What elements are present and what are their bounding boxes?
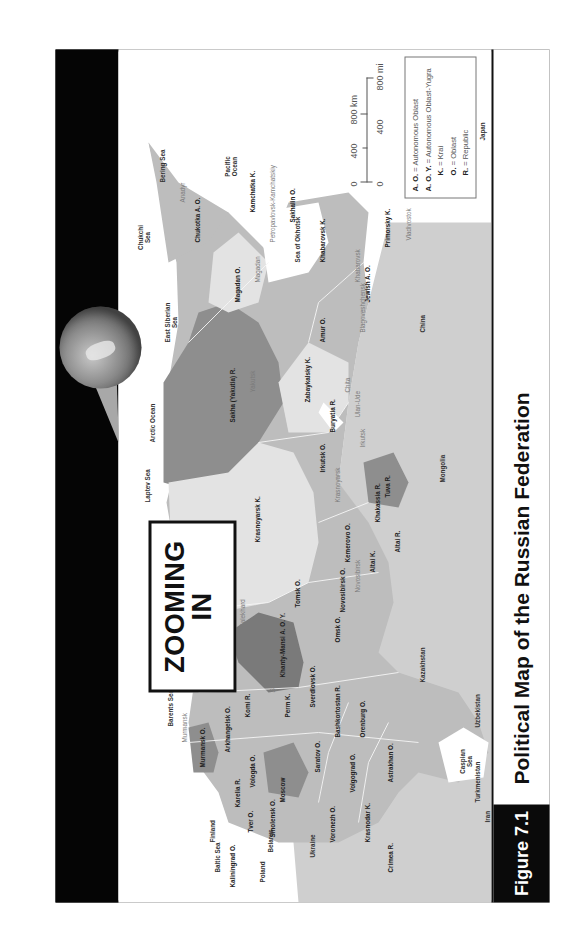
city-chita: Chita <box>343 377 350 392</box>
zooming-in-line2: IN <box>188 523 215 689</box>
label-caspian-sea: Caspian Sea <box>458 745 472 777</box>
label-tver: Tver O. <box>246 810 253 832</box>
city-anadyr: Anadyr <box>178 182 185 202</box>
label-pacific-ocean: Pacific Ocean <box>223 150 237 182</box>
label-buryatia: Buryatia R. <box>328 399 335 432</box>
label-altai-krai: Altai K. <box>368 550 375 572</box>
label-magadan: Magadan O. <box>233 266 240 302</box>
figure-title: Political Map of the Russian Federation <box>493 392 549 784</box>
label-perm: Perm K. <box>283 693 290 717</box>
scale-mi-400: 400 <box>374 119 384 134</box>
label-saratov: Saratov O. <box>313 741 320 773</box>
figure-panel: Arctic Ocean Barents Sea Kara Sea Laptev… <box>55 49 549 902</box>
map-legend: A. O. = Autonomous Oblast A. O. Y. = Aut… <box>404 56 476 198</box>
label-kemerovo: Kemerovo O. <box>343 523 350 562</box>
legend-item: K. = Krai <box>434 63 447 191</box>
label-amur: Amur O. <box>318 317 325 342</box>
zoom-beam <box>55 49 175 902</box>
label-voronezh: Voronezh O. <box>328 805 335 842</box>
city-blagoveshchensk: Blagoveshchensk <box>358 283 365 332</box>
label-bashkortostan: Bashkortostan R. <box>333 685 340 737</box>
label-komi: Komi R. <box>243 693 250 717</box>
label-kaliningrad: Kaliningrad O. <box>228 844 235 887</box>
legend-item: O. = Oblast <box>447 63 460 191</box>
label-ukraine: Ukraine <box>308 834 315 857</box>
figure-label: Figure 7.1 <box>493 804 549 902</box>
label-vologda: Vologda O. <box>248 754 255 787</box>
label-sverdlovsk: Sverdlovsk O. <box>308 665 315 707</box>
label-murmansk: Murmansk O. <box>198 727 205 767</box>
city-murmansk: Murmansk <box>180 713 187 742</box>
label-khanty-mansi: Khanty-Mansi A. O. Y. <box>278 613 285 677</box>
label-zabaykalsky: Zabaykalsky K. <box>303 356 310 402</box>
label-japan: Japan <box>478 122 485 140</box>
label-sea-of-okhotsk: Sea of Okhotsk <box>293 216 300 262</box>
label-khabarovsk: Khabarovsk K. <box>318 218 325 262</box>
label-smolensk: Smolensk O. <box>268 799 275 837</box>
label-mongolia: Mongolia <box>438 454 445 482</box>
label-khakassia: Khakassia R. <box>373 483 380 522</box>
label-baltic-sea: Baltic Sea <box>213 842 220 872</box>
scale-km-400: 400 <box>348 143 358 158</box>
legend-item: A. O. = Autonomous Oblast <box>409 63 422 191</box>
label-kamchatka: Kamchatka K. <box>248 170 255 212</box>
label-astrakhan: Astrakhan O. <box>386 743 393 782</box>
city-magadan: Magadan <box>253 256 260 282</box>
scale-km-0: 0 <box>348 181 358 186</box>
scale-mi-800: 800 mi <box>374 63 384 90</box>
label-iran: Iran <box>483 810 490 822</box>
label-sakhalin: Sakhalin O. <box>288 188 295 222</box>
label-moscow: Moscow <box>278 777 285 802</box>
scale-mi-0: 0 <box>374 181 384 186</box>
label-altai-republic: Altai R. <box>393 530 400 552</box>
label-arkhangelsk: Arkhangelsk O. <box>223 706 230 752</box>
city-khabarovsk: Khabarovsk <box>353 249 360 282</box>
city-syktyvkar: Syktyvkar <box>268 665 275 692</box>
label-volgograd: Volgograd O. <box>348 753 355 792</box>
legend-item: A. O. Y. = Autonomous Oblast-Yugra <box>422 63 435 191</box>
city-ulan-ude: Ulan-Ude <box>353 390 360 417</box>
label-turkmenistan: Turkmenistan <box>473 761 480 802</box>
city-salekhard: Salekhard <box>238 599 245 627</box>
label-finland: Finland <box>208 820 215 842</box>
label-sakha: Sakha (Yakutia) R. <box>228 367 235 422</box>
city-novosibirsk: Novosibirsk <box>353 559 360 592</box>
label-irkutsk: Irkutsk O. <box>318 443 325 472</box>
globe-icon <box>59 306 141 388</box>
label-karelia: Karelia R. <box>233 778 240 807</box>
city-vladivostok: Vladivostok <box>404 208 411 240</box>
label-novosibirsk: Novosibirsk O. <box>338 568 345 612</box>
figure-caption: Figure 7.1 Political Map of the Russian … <box>491 49 549 902</box>
label-poland: Poland <box>258 861 265 882</box>
city-krasnoyarsk: Krasnoyarsk <box>333 467 340 502</box>
label-crimea: Crimea R. <box>386 843 393 872</box>
scale-km-800: 800 km <box>348 94 358 124</box>
city-petropavlovsk: Petropavlovsk-Kamchatskiy <box>268 165 275 242</box>
label-china: China <box>418 315 425 333</box>
label-chukotka: Chukotka A. O. <box>193 197 200 242</box>
label-omsk: Omsk O. <box>333 616 340 642</box>
city-yakutsk: Yakutsk <box>248 370 255 392</box>
label-krasnoyarsk: Krasnoyarsk K. <box>253 496 260 542</box>
legend-item: R. = Republic <box>459 63 472 191</box>
scale-bar: 0 400 800 km 0 400 800 mi <box>344 60 398 190</box>
label-tuva: Tuva R. <box>383 475 390 497</box>
city-irkutsk: Irkutsk <box>358 428 365 447</box>
label-uzbekistan: Uzbekistan <box>473 694 480 727</box>
label-krasnodar: Krasnodar K. <box>363 802 370 842</box>
label-orenburg: Orenburg O. <box>358 700 365 737</box>
label-primorsky: Primorsky K. <box>383 208 390 247</box>
label-tomsk: Tomsk O. <box>293 579 300 607</box>
label-kazakhstan: Kazakhstan <box>418 647 425 682</box>
